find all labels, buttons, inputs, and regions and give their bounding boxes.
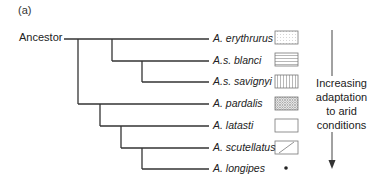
vertical-lines-box-icon: [275, 75, 298, 88]
crosshatch-box-icon: [275, 97, 298, 110]
horizontal-lines-box-icon: [275, 53, 298, 66]
taxon-label: A. latasti: [213, 119, 253, 131]
taxon-label: A.s. savignyi: [213, 75, 272, 87]
taxon-label: A. erythrurus: [213, 32, 273, 44]
taxon-label: A.s. blanci: [213, 54, 261, 66]
empty-box-icon: [275, 119, 298, 132]
arrow-caption-line: Increasing: [308, 76, 375, 90]
arrow-down-icon: [329, 160, 336, 169]
arrow-caption-line: conditions: [308, 118, 375, 132]
arrow-caption-line: to arid: [308, 104, 375, 118]
taxon-label: A. pardalis: [213, 97, 263, 109]
dotted-box-icon: [275, 31, 298, 44]
arrow-caption: Increasing adaptation to arid conditions: [308, 76, 375, 132]
taxon-label: A. longipes: [213, 162, 265, 174]
arrow-caption-line: adaptation: [308, 90, 375, 104]
taxon-label: A. scutellatus: [213, 141, 275, 153]
dot-icon: [284, 166, 288, 170]
